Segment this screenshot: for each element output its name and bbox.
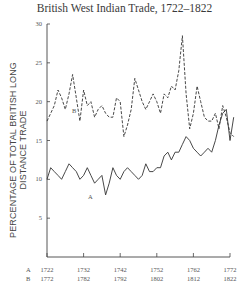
y-tick-label: 20 xyxy=(36,98,43,105)
x-tick-label: 1732 xyxy=(77,266,90,273)
x-tick-label: 1772 xyxy=(41,275,54,282)
y-tick-label: 15 xyxy=(36,137,43,144)
x-tick-label: 1772 xyxy=(224,266,237,273)
x-row-label: B xyxy=(26,275,31,282)
series-a-line xyxy=(47,109,234,194)
x-tick-label: 1722 xyxy=(41,266,54,273)
series-b-line xyxy=(47,36,234,137)
x-tick-label: 1812 xyxy=(187,275,200,282)
x-tick-label: 1822 xyxy=(224,275,237,282)
x-row-label: A xyxy=(26,266,31,273)
x-tick-label: 1752 xyxy=(150,266,163,273)
series-a-annotation: A xyxy=(88,193,93,200)
x-tick-label: 1742 xyxy=(114,266,127,273)
x-tick-label: 1782 xyxy=(77,275,90,282)
y-tick-label: 10 xyxy=(36,175,43,182)
x-tick-label: 1802 xyxy=(150,275,163,282)
x-tick-label: 1792 xyxy=(114,275,127,282)
y-tick-label: 25 xyxy=(36,59,43,66)
x-tick-label: 1762 xyxy=(187,266,200,273)
y-tick-label: 30 xyxy=(36,20,43,27)
series-b-annotation: B xyxy=(72,107,77,114)
line-chart: 51015202530A172217321742175217621772B177… xyxy=(0,0,249,294)
y-tick-label: 5 xyxy=(39,214,42,221)
